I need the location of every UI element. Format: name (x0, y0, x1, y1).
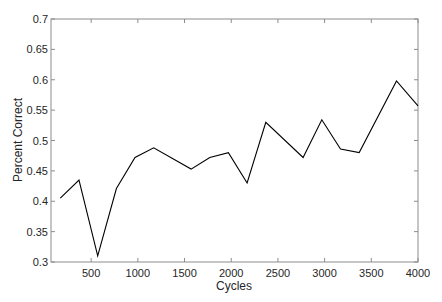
y-tick-label: 0.35 (27, 226, 48, 238)
y-tick-label: 0.5 (33, 135, 48, 147)
line-chart: 50010001500200025003000350040000.30.350.… (0, 0, 442, 302)
x-tick-label: 3000 (312, 267, 336, 279)
x-tick-label: 3500 (359, 267, 383, 279)
y-tick-label: 0.65 (27, 43, 48, 55)
y-tick-label: 0.7 (33, 13, 48, 25)
x-tick-label: 1000 (126, 267, 150, 279)
plot-area: 50010001500200025003000350040000.30.350.… (27, 13, 431, 279)
y-tick-label: 0.4 (33, 195, 48, 207)
y-tick-label: 0.55 (27, 104, 48, 116)
x-tick-label: 2500 (266, 267, 290, 279)
y-tick-label: 0.6 (33, 74, 48, 86)
y-tick-label: 0.45 (27, 165, 48, 177)
x-tick-label: 2000 (219, 267, 243, 279)
x-tick-label: 500 (82, 267, 100, 279)
y-axis-label: Percent Correct (11, 97, 25, 182)
y-tick-label: 0.3 (33, 256, 48, 268)
series-line (60, 81, 418, 256)
x-tick-label: 1500 (172, 267, 196, 279)
x-tick-label: 4000 (406, 267, 430, 279)
x-axis-label: Cycles (216, 279, 252, 293)
